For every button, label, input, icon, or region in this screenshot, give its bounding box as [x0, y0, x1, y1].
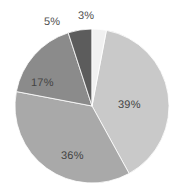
pie-chart: 39% 36% 17% 5% 3%: [0, 0, 182, 195]
pie-slice-label-3: 3%: [78, 11, 94, 22]
pie-chart-svg: [0, 0, 182, 195]
pie-slice-label-36: 36%: [61, 151, 84, 162]
pie-slice-label-5: 5%: [44, 17, 60, 28]
pie-slices: [15, 29, 169, 183]
pie-slice-label-17: 17%: [31, 78, 54, 89]
pie-slice-label-39: 39%: [118, 100, 141, 111]
